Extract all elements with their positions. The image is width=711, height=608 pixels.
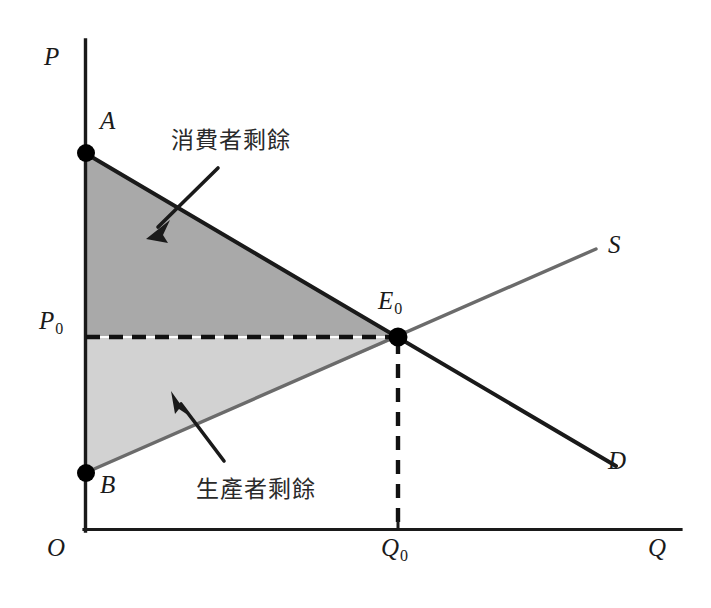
quantity-equilibrium-letter: Q xyxy=(381,534,399,561)
point-marker-b xyxy=(77,464,95,482)
price-equilibrium-letter: P xyxy=(39,307,54,334)
point-label-e0-letter: E xyxy=(378,287,393,314)
diagram-canvas xyxy=(0,0,711,608)
price-equilibrium-subscript: 0 xyxy=(55,320,63,337)
point-label-e0: E0 xyxy=(378,288,401,313)
point-marker-a xyxy=(77,144,95,162)
quantity-equilibrium-subscript: 0 xyxy=(400,547,408,564)
supply-demand-surplus-diagram: P Q O Q0 P0 A B E0 S D 消費者剩餘 生產者剩餘 xyxy=(0,0,711,608)
demand-curve-label: D xyxy=(608,448,626,473)
quantity-axis-label: Q xyxy=(648,535,666,560)
quantity-equilibrium-label: Q0 xyxy=(381,535,407,560)
point-label-e0-subscript: 0 xyxy=(394,300,402,317)
price-axis-label: P xyxy=(44,44,59,69)
supply-curve-label: S xyxy=(608,232,621,257)
producer-surplus-label: 生產者剩餘 xyxy=(196,478,316,501)
point-marker-e0 xyxy=(389,328,408,347)
point-label-a: A xyxy=(100,108,115,133)
consumer-surplus-label: 消費者剩餘 xyxy=(171,129,291,152)
point-label-b: B xyxy=(100,472,115,497)
price-equilibrium-label: P0 xyxy=(39,308,62,333)
origin-label: O xyxy=(47,535,65,560)
